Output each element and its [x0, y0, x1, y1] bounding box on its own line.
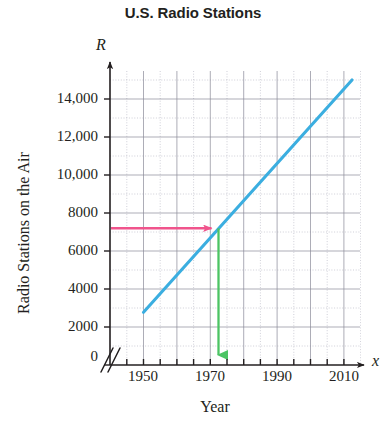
grid-major-vertical	[144, 71, 344, 365]
y-axis-ticks	[104, 99, 110, 365]
plot-canvas	[0, 0, 386, 425]
series-line-radio-stations	[144, 80, 353, 312]
chart-figure: U.S. Radio Stations Radio Stations on th…	[0, 0, 386, 425]
grid-major-horizontal	[110, 99, 360, 327]
x-axis-ticks	[127, 359, 344, 365]
